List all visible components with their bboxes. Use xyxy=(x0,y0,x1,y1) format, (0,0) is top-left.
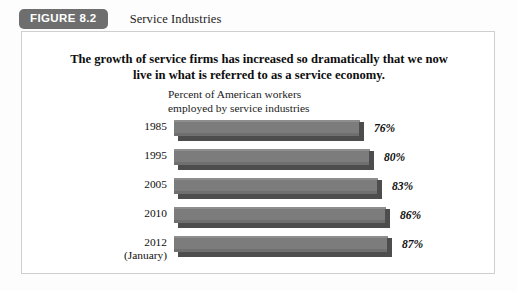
figure-container: FIGURE 8.2 Service Industries The growth… xyxy=(0,0,517,291)
bar-shadow-cap xyxy=(385,209,390,228)
bar-value-label: 80% xyxy=(384,151,405,164)
bar-shadow-base xyxy=(178,223,390,228)
bar-face xyxy=(174,149,370,165)
figure-header: FIGURE 8.2 Service Industries xyxy=(19,8,497,30)
bar-category-label: 2010 xyxy=(77,207,167,220)
bar-category-label-line-1: 1985 xyxy=(77,120,167,133)
chart-subtitle-line-2: employed by service industries xyxy=(168,102,309,116)
bar-category-label: 2005 xyxy=(77,178,167,191)
bar-category-label-line-1: 2012 xyxy=(77,236,167,249)
bar-shadow-cap xyxy=(369,151,374,170)
bar-shadow-base xyxy=(178,165,374,170)
bar-track xyxy=(174,149,370,170)
bar-track xyxy=(174,236,388,257)
bar-row: 199580% xyxy=(22,149,496,178)
chart-subtitle: Percent of American workers employed by … xyxy=(168,88,309,115)
bar-category-label: 1985 xyxy=(77,120,167,133)
bar-row: 2012(January)87% xyxy=(22,236,496,265)
bar-value-label: 83% xyxy=(392,180,413,193)
bar-value-label: 86% xyxy=(400,209,421,222)
bar-shadow-base xyxy=(178,252,392,257)
bar-shadow-cap xyxy=(387,238,392,257)
bar-category-label-line-1: 2005 xyxy=(77,178,167,191)
bar-track xyxy=(174,120,360,141)
chart-subtitle-line-1: Percent of American workers xyxy=(168,88,309,102)
bar-shadow-cap xyxy=(377,180,382,199)
bar-chart-plot: 198576%199580%200583%201086%2012(January… xyxy=(22,120,496,270)
bar-shadow-base xyxy=(178,194,382,199)
bar-row: 201086% xyxy=(22,207,496,236)
headline-line-2: live in what is referred to as a service… xyxy=(22,67,496,83)
bar-category-label-line-1: 2010 xyxy=(77,207,167,220)
bar-track xyxy=(174,178,378,199)
bar-face xyxy=(174,120,360,136)
figure-number-badge: FIGURE 8.2 xyxy=(19,9,108,30)
bar-row: 198576% xyxy=(22,120,496,149)
bar-face xyxy=(174,178,378,194)
bar-track xyxy=(174,207,386,228)
bar-category-label: 2012(January) xyxy=(77,236,167,262)
bar-face xyxy=(174,207,386,223)
figure-headline: The growth of service firms has increase… xyxy=(22,51,496,83)
figure-content-box: The growth of service firms has increase… xyxy=(21,31,495,274)
bar-face xyxy=(174,236,388,252)
bar-value-label: 76% xyxy=(374,122,395,135)
bar-shadow-base xyxy=(178,136,364,141)
figure-caption-title: Service Industries xyxy=(130,12,222,27)
headline-line-1: The growth of service firms has increase… xyxy=(22,51,496,67)
bar-category-label-line-1: 1995 xyxy=(77,149,167,162)
bar-shadow-cap xyxy=(359,122,364,141)
bar-value-label: 87% xyxy=(402,238,423,251)
bar-row: 200583% xyxy=(22,178,496,207)
bar-category-label-line-2: (January) xyxy=(77,249,167,262)
bar-category-label: 1995 xyxy=(77,149,167,162)
